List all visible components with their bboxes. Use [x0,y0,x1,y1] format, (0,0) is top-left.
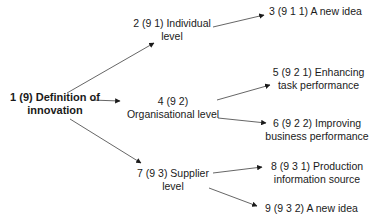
node-7-line1: 7 (9 3) Supplier [130,167,216,180]
node-8-line1: 8 (9 3 1) Production [263,160,371,173]
node-4-line2: Organisational level [118,108,228,121]
node-7-line2: level [130,180,216,193]
node-improving-business-performance: 6 (9 2 2) Improving business performance [263,117,371,142]
node-enhancing-task-performance: 5 (9 2 1) Enhancing task performance [266,66,371,91]
node-2-line1: 2 (9 1) Individual [127,17,217,30]
edge-1-to-7 [70,119,141,163]
node-organisational-level: 4 (9 2) Organisational level [118,95,228,120]
node-3-line1: 3 (9 1 1) A new idea [269,5,362,18]
node-individual-level: 2 (9 1) Individual level [127,17,217,42]
node-supplier-new-idea: 9 (9 3 2) A new idea [265,202,358,215]
edge-1-to-2 [67,43,154,93]
node-6-line1: 6 (9 2 2) Improving [263,117,371,130]
node-2-line2: level [127,30,217,43]
node-6-line2: business performance [263,130,371,143]
node-individual-new-idea: 3 (9 1 1) A new idea [269,5,362,18]
node-definition-of-innovation: 1 (9) Definition of innovation [0,91,110,117]
node-production-information-source: 8 (9 3 1) Production information source [263,160,371,185]
innovation-definition-diagram: 1 (9) Definition of innovation 2 (9 1) I… [0,0,371,219]
node-4-line1: 4 (9 2) [118,95,228,108]
node-5-line1: 5 (9 2 1) Enhancing [266,66,371,79]
edge-2-to-3 [213,15,264,27]
node-1-line2: innovation [0,104,110,117]
node-1-line1: 1 (9) Definition of [0,91,110,104]
edge-7-to-9 [209,188,257,206]
node-supplier-level: 7 (9 3) Supplier level [130,167,216,192]
edge-7-to-8 [213,167,262,173]
node-9-line1: 9 (9 3 2) A new idea [265,202,358,215]
node-5-line2: task performance [266,79,371,92]
node-8-line2: information source [263,173,371,186]
